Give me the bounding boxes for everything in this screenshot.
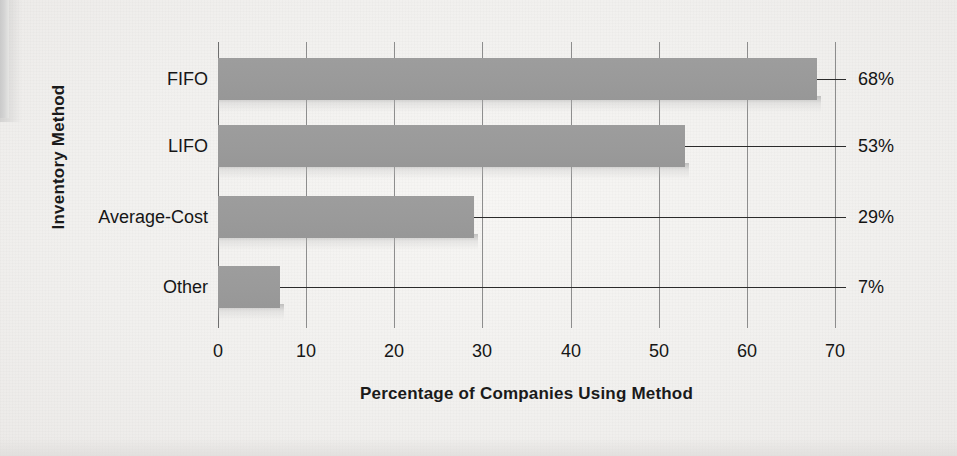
value-label-other: 7% [858,277,884,297]
page-bottom-edge [0,438,957,456]
bar-fifo[interactable] [218,58,817,100]
y-axis-title: Inventory Method [46,12,72,302]
x-tick-label-10: 10 [276,340,336,362]
value-leader-line [474,217,846,218]
value-leader-line [280,287,846,288]
gridline-70 [835,42,836,328]
category-label-other: Other [0,277,208,297]
value-label-lifo: 53% [858,136,894,156]
x-tick-label-50: 50 [629,340,689,362]
value-label-average-cost: 29% [858,207,894,227]
x-tick-label-20: 20 [364,340,424,362]
bar-lifo[interactable] [218,125,685,167]
category-label-lifo: LIFO [0,136,208,156]
value-leader-line [685,146,846,147]
value-label-fifo: 68% [858,69,894,89]
bar-chart-plot: Inventory Method FIFOLIFOAverage-CostOth… [0,0,957,456]
category-label-average-cost: Average-Cost [0,207,208,227]
x-tick-label-60: 60 [717,340,777,362]
x-tick-label-30: 30 [452,340,512,362]
bar-other[interactable] [218,266,280,308]
bar-average-cost[interactable] [218,196,474,238]
chart-page: Inventory Method FIFOLIFOAverage-CostOth… [0,0,957,456]
x-tick-label-70: 70 [805,340,865,362]
x-tick-label-40: 40 [541,340,601,362]
x-tick-label-0: 0 [188,340,248,362]
category-label-fifo: FIFO [0,69,208,89]
x-axis-title: Percentage of Companies Using Method [218,384,835,404]
value-leader-line [817,79,846,80]
